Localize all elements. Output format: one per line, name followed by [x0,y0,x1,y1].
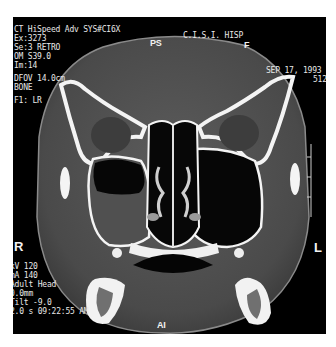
orientation-bottom-marker: AI [157,321,166,330]
slice-thickness: 0.0mm [13,289,33,298]
scan-date: SEP 17, 1993 [266,66,321,75]
orientation-top-label: PS [150,39,162,48]
matrix-size: 512 [313,75,326,84]
scan-time: 2.0 s 09:22:55 AM [13,307,88,316]
scanner-model: CT HiSpeed Adv SYS#CI6X [14,25,120,34]
image-number: Im:14 [14,61,37,70]
series-number: Se:3 RETRO [14,43,60,52]
orientation-right-marker: R [14,242,23,251]
kv-value: kV 120 [13,262,38,271]
filter: F1: LR [14,96,42,105]
protocol-name: Adult Head [13,280,56,289]
algorithm: BONE [14,83,32,92]
exam-number: Ex:3273 [14,34,46,43]
ct-scan-image [13,17,326,334]
institution-name: C.I.S.I. HISP [183,31,243,40]
orientation-f-label: F [244,41,249,50]
gantry-tilt: Tilt -9.0 [13,298,52,307]
om-value: OM S39.0 [14,52,51,61]
dfov-value: DFOV 14.0cm [14,74,65,83]
ma-value: mA 140 [13,271,38,280]
orientation-left-marker: L [314,243,322,252]
ct-image-viewer[interactable]: CT HiSpeed Adv SYS#CI6X Ex:3273 Se:3 RET… [13,17,326,334]
